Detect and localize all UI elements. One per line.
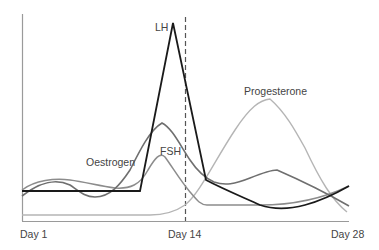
hormone-cycle-chart (0, 0, 379, 250)
lh-label: LH (155, 22, 168, 33)
x-tick-day1: Day 1 (20, 229, 47, 240)
x-tick-day28: Day 28 (331, 229, 364, 240)
x-tick-day14: Day 14 (168, 229, 201, 240)
progesterone-label: Progesterone (244, 86, 307, 97)
fsh-label: FSH (160, 146, 181, 157)
oestrogen-label: Oestrogen (86, 157, 135, 168)
progesterone-curve (22, 99, 347, 215)
